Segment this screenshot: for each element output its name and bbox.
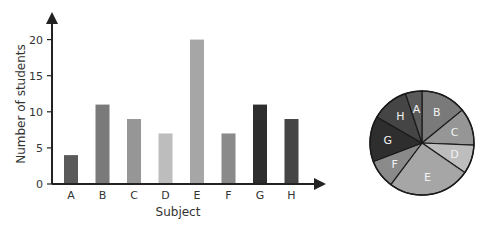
pie-slice-label: D (450, 148, 458, 161)
bar-chart: 05101520 ABCDEFGH Subject Number of stud… (14, 12, 326, 219)
bar-c (127, 119, 141, 184)
x-tick-label: C (130, 189, 138, 202)
chart-canvas: 05101520 ABCDEFGH Subject Number of stud… (0, 0, 490, 226)
bar-series (64, 40, 299, 184)
pie-slice-label: C (451, 126, 459, 139)
y-axis-ticks: 05101520 (29, 34, 52, 191)
x-axis-arrow-icon (314, 178, 326, 190)
bar-g (253, 105, 267, 184)
y-axis-arrow-icon (46, 12, 58, 24)
y-tick-label: 5 (36, 142, 43, 155)
pie-slice-label: B (433, 106, 441, 119)
y-tick-label: 20 (29, 34, 43, 47)
x-axis-category-labels: ABCDEFGH (67, 189, 295, 202)
bar-b (96, 105, 110, 184)
x-axis-title: Subject (156, 205, 201, 219)
x-tick-label: B (99, 189, 107, 202)
pie-slice-label: A (413, 103, 421, 116)
bar-a (64, 155, 78, 184)
pie-slice-label: E (424, 171, 431, 184)
x-tick-label: F (225, 189, 231, 202)
bar-e (190, 40, 204, 184)
y-axis-title: Number of students (14, 44, 28, 164)
y-tick-label: 10 (29, 106, 43, 119)
x-tick-label: G (256, 189, 265, 202)
pie-slice-label: H (396, 110, 404, 123)
bar-f (222, 133, 236, 184)
pie-slice-label: F (391, 158, 397, 171)
x-tick-label: D (161, 189, 169, 202)
pie-slice-label: G (384, 134, 393, 147)
bar-d (159, 133, 173, 184)
y-tick-label: 15 (29, 70, 43, 83)
y-tick-label: 0 (36, 178, 43, 191)
pie-chart: BCDEFGHA (370, 91, 474, 195)
x-tick-label: H (287, 189, 295, 202)
x-tick-label: E (194, 189, 201, 202)
bar-h (285, 119, 299, 184)
chart-figure: 05101520 ABCDEFGH Subject Number of stud… (0, 0, 490, 226)
x-tick-label: A (67, 189, 75, 202)
